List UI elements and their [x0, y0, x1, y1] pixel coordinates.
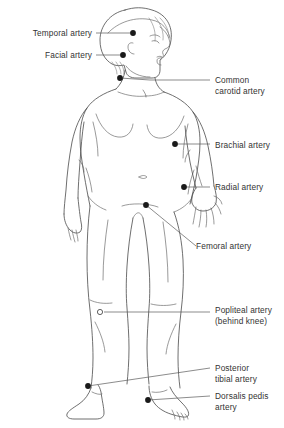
- left-ankle: [92, 392, 102, 394]
- clavicle-left: [118, 92, 146, 96]
- leader-line-femoral-artery: [146, 205, 196, 246]
- pulse-point-marker-brachial-artery[interactable]: [172, 141, 178, 147]
- right-toes: [172, 410, 188, 420]
- right-arm-group: [185, 112, 222, 227]
- pulse-point-marker-radial-artery[interactable]: [181, 184, 187, 190]
- left-hand: [64, 198, 82, 233]
- breast-left: [96, 114, 133, 137]
- left-knee: [90, 300, 112, 303]
- torso-group: [80, 89, 200, 212]
- label-temporal-artery: Temporal artery: [8, 28, 92, 39]
- pulse-point-marker-facial-artery[interactable]: [120, 52, 126, 58]
- right-foot: [149, 386, 189, 417]
- label-common-carotid-artery: Common carotid artery: [215, 75, 283, 96]
- artery-pulse-point-diagram: Temporal arteryFacial arteryCommon carot…: [0, 0, 284, 428]
- right-leg-outer: [174, 212, 183, 388]
- right-ankle: [152, 390, 167, 392]
- eye: [152, 41, 159, 43]
- right-hand-fingers: [193, 203, 221, 227]
- clavicle-right: [146, 92, 164, 96]
- right-hand-back: [192, 186, 217, 211]
- left-thigh-shade: [103, 220, 108, 280]
- label-facial-artery: Facial artery: [8, 50, 92, 61]
- pulse-point-marker-temporal-artery[interactable]: [130, 30, 136, 36]
- left-leg-outer: [87, 206, 93, 388]
- neck-shoulders-group: [116, 70, 164, 97]
- label-brachial-artery: Brachial artery: [215, 140, 283, 151]
- pulse-point-marker-common-carotid-artery[interactable]: [117, 75, 123, 81]
- label-radial-artery: Radial artery: [215, 182, 283, 193]
- ear: [128, 43, 134, 54]
- left-hand-fingers: [68, 228, 78, 242]
- forearm-crease: [196, 166, 202, 186]
- breast-right: [147, 116, 184, 138]
- pulse-point-marker-posterior-tibial-artery[interactable]: [85, 383, 91, 389]
- head-group: [100, 8, 171, 78]
- right-thigh-shade: [163, 222, 168, 282]
- ribcage-shadow-left: [93, 122, 98, 156]
- left-leg-inner: [126, 218, 133, 384]
- mouth: [157, 56, 162, 57]
- leader-line-layer: [88, 33, 210, 400]
- left-calf: [95, 322, 105, 352]
- navel: [139, 176, 147, 179]
- hip-right: [174, 198, 192, 212]
- right-knee: [151, 304, 176, 306]
- left-foot: [67, 385, 104, 419]
- left-arm-group: [64, 108, 87, 242]
- label-femoral-artery: Femoral artery: [196, 241, 282, 252]
- legs-group: [87, 204, 183, 388]
- leader-line-common-carotid-artery: [120, 78, 210, 80]
- right-calf: [166, 324, 176, 354]
- hair-strand-1: [149, 18, 155, 41]
- pulse-point-marker-popliteal-artery[interactable]: [97, 309, 102, 314]
- right-arm-inner: [185, 126, 196, 188]
- sideburn: [112, 62, 124, 74]
- pulse-point-marker-layer: [85, 30, 187, 403]
- right-leg-inner: [143, 218, 150, 384]
- pulse-point-marker-dorsalis-pedis-artery[interactable]: [145, 397, 151, 403]
- jaw-line: [126, 66, 150, 77]
- groin-line: [133, 213, 143, 218]
- hairline: [108, 19, 170, 38]
- label-popliteal-artery: Popliteal artery (behind knee): [215, 305, 283, 326]
- pubic-area: [122, 204, 158, 207]
- label-posterior-tibial-artery: Posterior tibial artery: [215, 363, 283, 384]
- label-dorsalis-pedis-artery: Dorsalis pedis artery: [215, 391, 283, 412]
- feet-group: [67, 385, 189, 420]
- hip-left: [88, 196, 106, 210]
- pulse-point-marker-femoral-artery[interactable]: [143, 202, 149, 208]
- torso-left-side: [80, 89, 116, 206]
